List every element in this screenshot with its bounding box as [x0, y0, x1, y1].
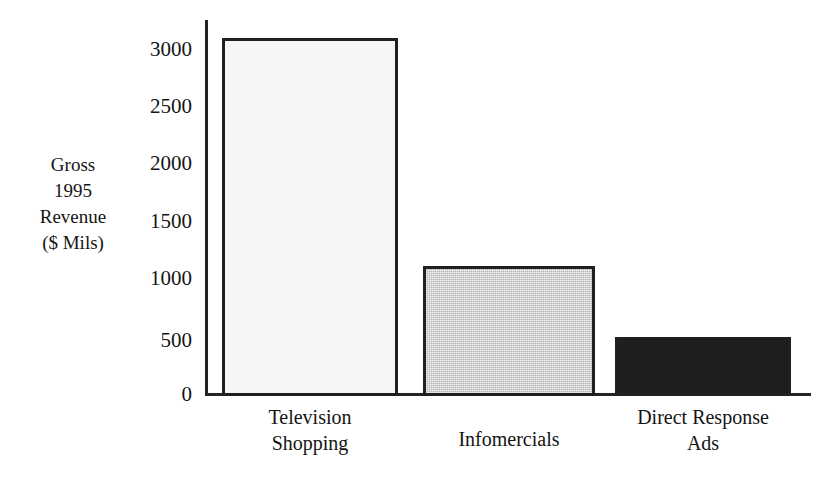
y-axis-title: Gross 1995 Revenue ($ Mils): [18, 152, 128, 256]
y-tick-label-1500: 1500: [120, 211, 192, 232]
y-tick-label-500: 500: [120, 330, 192, 351]
y-tick-label-1000: 1000: [120, 268, 192, 289]
y-tick-label-2000: 2000: [120, 153, 192, 174]
y-axis-title-line-3: Revenue: [18, 204, 128, 230]
bar-infomercials: [423, 266, 595, 396]
bar-chart: Gross 1995 Revenue ($ Mils) 3000 2500 20…: [0, 0, 833, 488]
y-tick-label-3000: 3000: [120, 39, 192, 60]
y-axis-title-line-1: Gross: [18, 152, 128, 178]
x-category-label-infomercials-line-1: Infomercials: [419, 426, 599, 452]
x-category-label-direct-response-ads-line-2: Ads: [608, 430, 798, 456]
bar-television-shopping: [222, 38, 398, 396]
x-category-label-direct-response-ads: Direct Response Ads: [608, 404, 798, 456]
x-category-label-television-shopping-line-1: Television: [220, 404, 400, 430]
y-axis-title-line-2: 1995: [18, 178, 128, 204]
x-category-label-direct-response-ads-line-1: Direct Response: [608, 404, 798, 430]
y-axis-line: [205, 20, 208, 396]
y-tick-label-0: 0: [120, 384, 192, 405]
x-category-label-television-shopping: Television Shopping: [220, 404, 400, 456]
bar-direct-response-ads: [615, 337, 791, 396]
y-axis-title-line-4: ($ Mils): [18, 230, 128, 256]
x-category-label-infomercials: Infomercials: [419, 426, 599, 452]
x-category-label-television-shopping-line-2: Shopping: [220, 430, 400, 456]
y-tick-label-2500: 2500: [120, 96, 192, 117]
